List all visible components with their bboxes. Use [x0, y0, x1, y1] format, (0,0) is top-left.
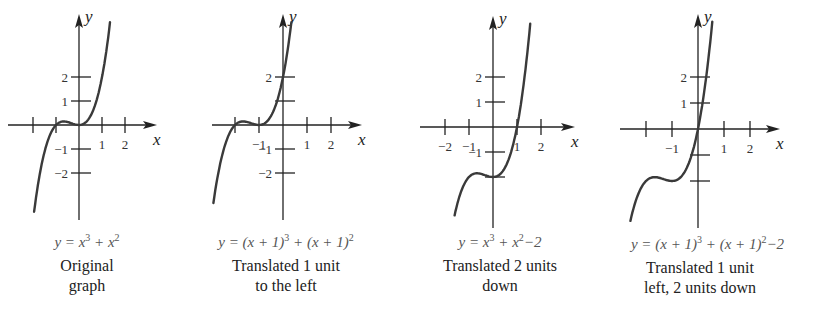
caption-shift-down: Translated 2 units down	[415, 256, 585, 296]
caption-line-1: Translated 1 unit	[615, 258, 785, 278]
y-tick-label: 2	[476, 70, 483, 85]
caption-shift-left: Translated 1 unit to the left	[196, 256, 376, 296]
eq-term: y = (x + 1)	[631, 236, 697, 252]
caption-shift-left-down: Translated 1 unit left, 2 units down	[615, 258, 785, 298]
y-axis-label: y	[702, 7, 712, 26]
eq-term: y = x	[459, 234, 490, 250]
y-axis-label: y	[497, 9, 507, 28]
y-tick-label: 2	[266, 70, 273, 85]
equation-shift-left: y = (x + 1)3 + (x + 1)2	[186, 232, 386, 251]
x-tick-label: 1	[99, 137, 106, 152]
graph-panel-4: xy−11221	[620, 7, 784, 228]
equation-shift-left-down: y = (x + 1)3 + (x + 1)2−2	[600, 234, 815, 253]
eq-term: + x	[90, 234, 114, 250]
caption-line-2: down	[415, 276, 585, 296]
graph-panel-3: xy−2−11221−1	[420, 9, 579, 228]
caption-line-2: to the left	[196, 276, 376, 296]
caption-line-2: graph	[22, 276, 152, 296]
y-tick-label: 1	[62, 94, 69, 109]
y-tick-label: −1	[258, 142, 272, 157]
y-tick-label: 1	[681, 96, 688, 111]
x-tick-label: 2	[328, 137, 335, 152]
x-tick-label: 1	[721, 141, 728, 156]
y-tick-label: 2	[681, 70, 688, 85]
eq-term: + (x + 1)	[289, 234, 348, 250]
y-tick-label: −2	[54, 166, 68, 181]
x-tick-label: −2	[438, 139, 452, 154]
eq-constant: −2	[524, 234, 542, 250]
function-curve	[34, 22, 110, 212]
caption-line-1: Translated 1 unit	[196, 256, 376, 276]
x-axis-label: x	[570, 132, 579, 151]
equation-original: y = x3 + x2	[22, 232, 152, 251]
x-axis-label: x	[152, 130, 161, 149]
x-axis-label: x	[775, 134, 784, 153]
y-tick-label: 1	[476, 95, 483, 110]
y-tick-label: −1	[54, 142, 68, 157]
function-curve	[213, 22, 291, 203]
eq-term: y = x	[54, 234, 85, 250]
x-tick-label: 2	[122, 137, 129, 152]
caption-line-1: Translated 2 units	[415, 256, 585, 276]
x-axis-label: x	[357, 130, 366, 149]
x-tick-label: 1	[304, 137, 311, 152]
y-tick-label: −2	[258, 166, 272, 181]
eq-term: + x	[495, 234, 519, 250]
graph-panel-1: xy1221−1−2	[8, 7, 161, 220]
x-tick-label: −1	[665, 141, 679, 156]
eq-exponent: 2	[115, 232, 120, 243]
y-axis-label: y	[83, 7, 93, 26]
caption-line-2: left, 2 units down	[615, 278, 785, 298]
caption-line-1: Original	[22, 256, 152, 276]
graph-panel-2: xy−1122−1−2	[212, 7, 366, 220]
eq-term: + (x + 1)	[702, 236, 761, 252]
x-tick-label: 2	[538, 139, 545, 154]
y-tick-label: −1	[468, 145, 482, 160]
x-tick-label: 2	[747, 141, 754, 156]
eq-exponent: 2	[349, 232, 354, 243]
eq-term: y = (x + 1)	[218, 234, 284, 250]
equation-shift-down: y = x3 + x2−2	[420, 232, 580, 251]
caption-original: Original graph	[22, 256, 152, 296]
eq-constant: −2	[766, 236, 784, 252]
y-tick-label: 2	[62, 70, 69, 85]
